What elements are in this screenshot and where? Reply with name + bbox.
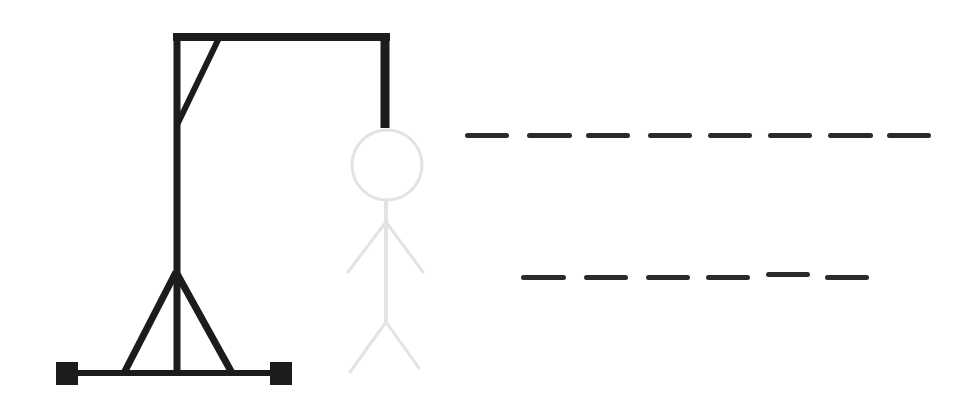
figure-right-arm	[386, 222, 423, 272]
letter-slot	[706, 275, 750, 280]
letter-slot	[768, 133, 812, 138]
gallows-brace	[177, 38, 219, 125]
figure-left-leg	[350, 322, 386, 372]
figure-right-leg	[386, 322, 419, 368]
gallows-left-leg	[124, 272, 176, 373]
letter-slot	[465, 133, 509, 138]
letter-slot	[828, 133, 873, 138]
gallows-right-leg	[176, 272, 232, 373]
letter-slot	[586, 133, 630, 138]
letter-slot	[527, 133, 572, 138]
figure-head	[352, 130, 422, 200]
hangman-game	[0, 0, 977, 405]
letter-slot	[584, 275, 628, 280]
letter-slot	[766, 272, 810, 277]
letter-slot	[646, 275, 690, 280]
figure-left-arm	[348, 222, 386, 272]
hanged-figure	[348, 130, 423, 372]
gallows-base-left-block	[56, 362, 78, 385]
letter-slot	[887, 133, 931, 138]
letter-slot	[708, 133, 752, 138]
letter-slot	[648, 133, 692, 138]
letter-slot	[825, 275, 869, 280]
hangman-drawing	[0, 0, 977, 405]
gallows-base-right-block	[270, 362, 292, 385]
gallows	[56, 33, 390, 385]
letter-slot	[521, 275, 566, 280]
